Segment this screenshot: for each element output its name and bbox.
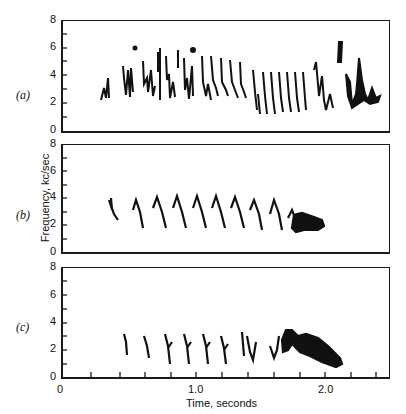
- panel-b-notes: [109, 196, 324, 232]
- spectrogram-graphics: [0, 0, 406, 414]
- panel-a-notes: [101, 42, 380, 114]
- y-ticks: [62, 34, 67, 364]
- panel-c-notes: [124, 330, 342, 367]
- x-ticks: [91, 372, 376, 378]
